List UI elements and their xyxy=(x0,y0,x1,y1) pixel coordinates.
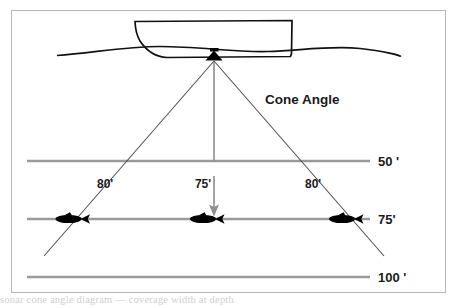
sonar-diagram-canvas: Cone Angle 50 ' 75' 100 ' 80' 75' 80' xyxy=(0,0,457,308)
measurement-label-left: 80' xyxy=(97,177,113,191)
cone-angle-label: Cone Angle xyxy=(265,92,340,107)
depth-label-50: 50 ' xyxy=(378,154,399,169)
page-caption-fragment: sonar cone angle diagram — coverage widt… xyxy=(0,294,457,308)
depth-label-75: 75' xyxy=(378,212,396,227)
measurement-label-right: 80' xyxy=(305,177,321,191)
depth-label-100: 100 ' xyxy=(378,270,406,285)
sonar-cone-angle-figure: Cone Angle 50 ' 75' 100 ' 80' 75' 80' so… xyxy=(0,0,457,308)
measurement-label-center: 75' xyxy=(195,177,211,191)
